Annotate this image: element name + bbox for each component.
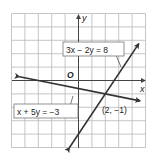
x-axis-label: x <box>139 84 145 94</box>
y-axis-label: y <box>81 13 87 23</box>
line-3x-2y-8 <box>70 44 139 148</box>
intersection-label: (2, −1) <box>102 105 127 115</box>
eq1-label: 3x − 2y = 8 <box>66 45 108 55</box>
eq2-label: x + 5y = −3 <box>17 107 60 117</box>
origin-label: O <box>67 70 74 80</box>
coordinate-graph: y x O 3x − 2y = 8 x + 5y = −3 (2, −1) <box>0 0 156 165</box>
